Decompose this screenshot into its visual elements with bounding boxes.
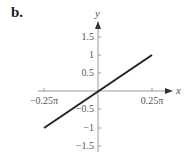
- y-tick-label: 1: [89, 49, 94, 60]
- x-tick-label: −0.25π: [30, 95, 58, 106]
- x-tick-label: 0.25π: [141, 95, 164, 106]
- x-axis-arrow-icon: [165, 88, 173, 94]
- x-axis-label: x: [175, 84, 181, 96]
- y-tick-label: −1: [83, 122, 94, 133]
- y-tick-label: 0.5: [82, 67, 95, 78]
- y-axis-arrow-icon: [95, 21, 101, 29]
- y-tick-label: 1.5: [82, 31, 95, 42]
- y-axis-label: y: [94, 7, 100, 19]
- chart: x y −0.25π 0.25π 1.5 1 0.5 −0.5 −1 −1.5: [0, 0, 186, 156]
- y-tick-label: −1.5: [76, 140, 94, 151]
